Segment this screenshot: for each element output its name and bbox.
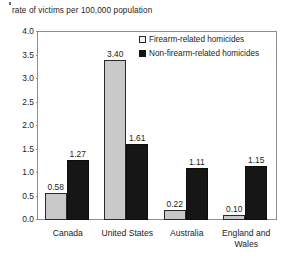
- y-tick-label: 0.0: [4, 214, 34, 224]
- bar: [67, 160, 89, 220]
- bar-value-label: 0.10: [226, 204, 242, 214]
- bar: [45, 193, 67, 220]
- y-tick-label: 4.0: [4, 26, 34, 36]
- legend-item-firearm: Firearm-related homicides: [139, 33, 259, 45]
- bar: [186, 168, 208, 220]
- legend-item-non-firearm: Non-firearm-related homicides: [139, 47, 259, 59]
- y-tick-label: 1.0: [4, 167, 34, 177]
- legend-label-firearm: Firearm-related homicides: [149, 35, 244, 44]
- bar: [104, 60, 126, 220]
- bar: [164, 210, 186, 220]
- bar: [223, 215, 245, 220]
- bar: [126, 144, 148, 220]
- bar-value-label: 1.15: [248, 155, 264, 165]
- legend-label-non-firearm: Non-firearm-related homicides: [149, 49, 259, 58]
- y-tick-label: 3.5: [4, 50, 34, 60]
- bar: [245, 166, 267, 220]
- y-tick-label: 2.5: [4, 97, 34, 107]
- x-tick-label: Australia: [154, 228, 220, 239]
- bar-value-label: 1.11: [189, 157, 205, 167]
- bar-value-label: 1.61: [129, 133, 145, 143]
- scan-artifact-speck: [9, 2, 11, 5]
- legend: Firearm-related homicides Non-firearm-re…: [139, 33, 259, 61]
- y-tick-label: 0.5: [4, 191, 34, 201]
- y-axis-title: rate of victims per 100,000 population: [12, 6, 152, 15]
- y-tick-label: 3.0: [4, 73, 34, 83]
- legend-swatch-non-firearm-icon: [139, 50, 146, 57]
- x-tick-label: United States: [95, 228, 161, 239]
- x-tick-label: England and Wales: [214, 228, 280, 250]
- bar-value-label: 3.40: [107, 49, 123, 59]
- y-axis-ticks: 4.03.53.02.52.01.51.00.50.0: [2, 31, 34, 220]
- bar-value-label: 0.22: [167, 199, 183, 209]
- bar-chart: rate of victims per 100,000 population 4…: [0, 0, 295, 264]
- x-tick-label: Canada: [35, 228, 101, 239]
- legend-swatch-firearm-icon: [139, 36, 146, 43]
- bar-value-label: 1.27: [70, 149, 86, 159]
- y-tick-label: 2.0: [4, 120, 34, 130]
- bar-value-label: 0.58: [48, 182, 64, 192]
- y-tick-label: 1.5: [4, 144, 34, 154]
